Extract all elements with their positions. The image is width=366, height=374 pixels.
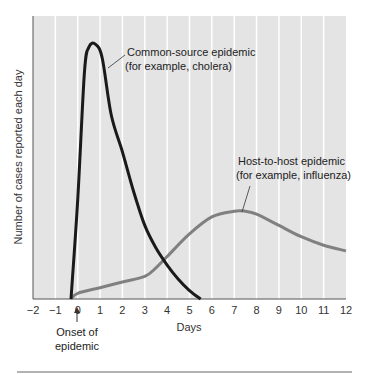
x-tick-label: 1 — [97, 304, 103, 316]
onset-label-line1: Onset of — [56, 326, 99, 338]
common-source-label-line2: (for example, cholera) — [125, 60, 232, 72]
host-to-host-label-line1: Host-to-host epidemic — [238, 155, 345, 167]
onset-label-line2: epidemic — [55, 340, 100, 352]
x-tick-label: 4 — [164, 304, 170, 316]
host-to-host-label-line2: (for example, influenza) — [236, 169, 351, 181]
x-tick-label: −1 — [49, 304, 62, 316]
x-tick-label: 5 — [186, 304, 192, 316]
x-tick-label: 3 — [142, 304, 148, 316]
x-tick-label: 10 — [295, 304, 307, 316]
x-tick-label: 12 — [340, 304, 352, 316]
x-tick-label: 2 — [119, 304, 125, 316]
x-tick-label: 11 — [318, 304, 329, 316]
x-axis-label: Days — [176, 321, 202, 333]
x-tick-label: 9 — [276, 304, 282, 316]
y-axis-label: Number of cases reported each day — [12, 69, 24, 244]
common-source-label-line1: Common-source epidemic — [127, 46, 256, 58]
x-tick-label: −2 — [27, 304, 40, 316]
x-tick-label: 7 — [231, 304, 237, 316]
x-tick-label: 8 — [254, 304, 260, 316]
epidemic-curve-chart: −2−10123456789101112 Common-source epide… — [0, 0, 366, 374]
x-tick-label: 6 — [209, 304, 215, 316]
